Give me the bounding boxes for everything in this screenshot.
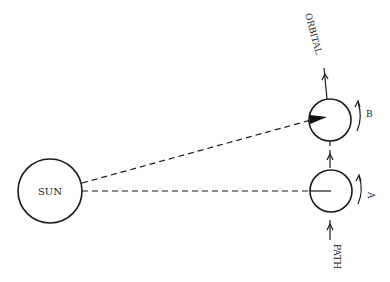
position-label-b: B bbox=[366, 109, 373, 119]
orbital-label: ORBITAL bbox=[303, 12, 324, 55]
sun-label: SUN bbox=[38, 186, 62, 197]
sun: SUN bbox=[18, 159, 82, 223]
orbital-path-arrows bbox=[322, 68, 333, 240]
marker-wedge bbox=[310, 115, 327, 124]
position-label-a: A bbox=[366, 191, 376, 199]
sunlight-line-to-b bbox=[82, 120, 311, 183]
sun-planet-rotation-diagram: SUN A B ORBITAL PATH bbox=[0, 0, 390, 282]
planet-position-b: B bbox=[309, 99, 373, 141]
planet-position-a: A bbox=[310, 170, 376, 212]
path-label: PATH bbox=[332, 244, 342, 269]
